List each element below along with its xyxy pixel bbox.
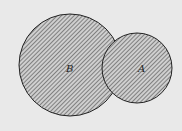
label-a: A bbox=[137, 63, 145, 74]
circle-a bbox=[102, 33, 172, 103]
label-b: B bbox=[65, 63, 73, 74]
venn-diagram: B A bbox=[0, 0, 182, 131]
